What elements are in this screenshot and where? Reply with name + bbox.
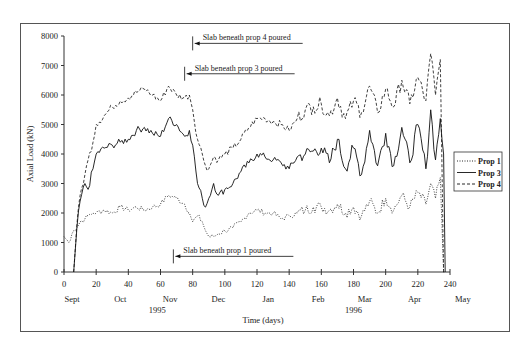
x-tick-label: 100 bbox=[218, 279, 231, 289]
legend: Prop 1Prop 3Prop 4 bbox=[454, 152, 502, 191]
x-tick-label: 200 bbox=[379, 279, 392, 289]
x-axis-title: Time (days) bbox=[242, 315, 283, 325]
x-tick-label: 40 bbox=[124, 279, 133, 289]
y-tick-label: 4000 bbox=[41, 149, 58, 159]
legend-label: Prop 1 bbox=[478, 157, 501, 166]
month-label: May bbox=[455, 294, 471, 304]
x-tick-label: 20 bbox=[92, 279, 101, 289]
month-label: Nov bbox=[163, 294, 178, 304]
x-tick-label: 160 bbox=[315, 279, 328, 289]
y-tick-label: 8000 bbox=[41, 31, 58, 41]
month-label: Oct bbox=[114, 294, 127, 304]
month-label: Mar bbox=[358, 294, 372, 304]
y-tick-label: 1000 bbox=[41, 238, 58, 248]
month-label: Apr bbox=[408, 294, 421, 304]
legend-label: Prop 4 bbox=[478, 180, 501, 189]
x-tick-label: 240 bbox=[444, 279, 457, 289]
y-axis-title: Axial Load (kN) bbox=[25, 126, 35, 183]
x-tick-label: 220 bbox=[411, 279, 424, 289]
y-tick-label: 3000 bbox=[41, 179, 58, 189]
series-prop-4 bbox=[74, 54, 446, 272]
arrow-left-icon bbox=[195, 41, 200, 45]
month-label: Dec bbox=[212, 294, 226, 304]
x-tick-label: 60 bbox=[156, 279, 165, 289]
year-label: 1996 bbox=[345, 305, 362, 315]
x-tick-label: 120 bbox=[251, 279, 264, 289]
series-prop-1 bbox=[64, 178, 445, 272]
chart-canvas: 0100020003000400050006000700080000204060… bbox=[0, 0, 529, 354]
month-label: Feb bbox=[312, 294, 325, 304]
month-label: Sept bbox=[64, 294, 80, 304]
series-lines bbox=[64, 54, 445, 272]
annotation-label: Slab beneath prop 1 poured bbox=[183, 246, 271, 255]
y-tick-label: 7000 bbox=[41, 61, 58, 71]
legend-label: Prop 3 bbox=[478, 169, 501, 178]
arrow-left-icon bbox=[175, 254, 180, 258]
x-tick-label: 140 bbox=[283, 279, 296, 289]
month-label: Jan bbox=[263, 294, 275, 304]
x-tick-label: 80 bbox=[188, 279, 197, 289]
y-tick-label: 2000 bbox=[41, 208, 58, 218]
y-tick-label: 5000 bbox=[41, 120, 58, 130]
year-label: 1995 bbox=[149, 305, 166, 315]
x-tick-label: 0 bbox=[62, 279, 66, 289]
y-tick-label: 6000 bbox=[41, 90, 58, 100]
y-tick-label: 0 bbox=[54, 267, 58, 277]
x-tick-label: 180 bbox=[347, 279, 360, 289]
annotation-label: Slab beneath prop 4 poured bbox=[203, 33, 291, 42]
arrow-left-icon bbox=[187, 72, 192, 76]
annotation-label: Slab beneath prop 3 poured bbox=[195, 64, 283, 73]
